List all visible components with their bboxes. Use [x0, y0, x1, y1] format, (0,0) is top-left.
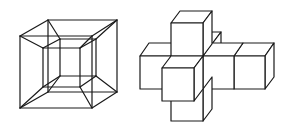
front-face — [171, 23, 203, 56]
inner-back-square — [60, 39, 96, 76]
outer-inner-front-edges — [20, 36, 92, 108]
cube-cross-figure — [140, 11, 274, 121]
inner-connecting-edges — [43, 39, 96, 87]
top-cube — [171, 11, 212, 56]
right-cube-2 — [234, 43, 274, 89]
front-face — [234, 56, 265, 89]
tesseract-figure — [20, 20, 117, 108]
outer-back-square — [48, 20, 117, 92]
front-face — [162, 68, 194, 101]
outer-inner-back-edges — [48, 20, 117, 92]
diagram-canvas — [0, 0, 290, 132]
center-front-cube — [162, 56, 203, 101]
